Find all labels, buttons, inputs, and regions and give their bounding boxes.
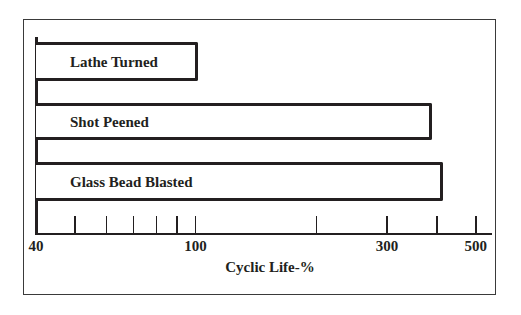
x-tick	[106, 216, 108, 234]
x-tick	[316, 216, 318, 234]
bar-label: Glass Bead Blasted	[70, 173, 193, 190]
bar-label: Shot Peened	[70, 113, 149, 130]
x-tick	[386, 216, 388, 234]
tick-label: 40	[29, 238, 44, 255]
x-tick	[195, 216, 197, 234]
x-tick	[156, 216, 158, 234]
tick-label: 100	[184, 238, 207, 255]
x-tick	[133, 216, 135, 234]
tick-label: 500	[465, 238, 488, 255]
x-tick	[74, 216, 76, 234]
bar-shot-peened: Shot Peened	[36, 103, 432, 140]
bar-lathe-turned: Lathe Turned	[36, 42, 198, 81]
x-tick	[475, 216, 477, 234]
x-tick	[436, 216, 438, 234]
x-tick	[176, 216, 178, 234]
x-axis-title: Cyclic Life-%	[225, 259, 315, 276]
x-axis-line	[35, 233, 492, 235]
bar-label: Lathe Turned	[70, 53, 158, 70]
tick-label: 300	[376, 238, 399, 255]
bar-glass-bead-blasted: Glass Bead Blasted	[36, 162, 443, 201]
